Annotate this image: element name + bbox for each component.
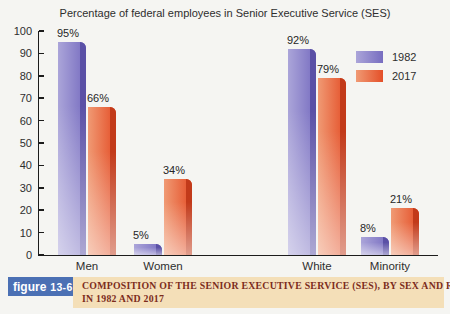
bar-value-label: 66% (87, 92, 109, 104)
y-axis-tick-label: 60 (2, 114, 32, 128)
y-axis-tick (39, 97, 44, 99)
y-axis-tick-label: 20 (2, 203, 32, 217)
y-axis-tick (39, 232, 44, 234)
y-axis-tick (39, 75, 44, 77)
legend-row-1982: 1982 (356, 47, 416, 66)
figure-tag-number: 13-6 (50, 281, 72, 293)
y-axis-tick-label: 70 (2, 91, 32, 105)
bar-shading (88, 107, 116, 255)
legend-label-2017: 2017 (392, 70, 416, 82)
bar-2017-men (88, 107, 116, 255)
y-axis-tick-label: 30 (2, 181, 32, 195)
bar-value-label: 95% (57, 27, 79, 39)
y-axis-tick (39, 165, 44, 167)
y-axis-tick (39, 142, 44, 144)
legend-label-1982: 1982 (392, 51, 416, 63)
y-axis-tick (39, 187, 44, 189)
bar-shading (58, 42, 86, 255)
category-label-men: Men (47, 260, 127, 272)
caption-line-2: IN 1982 AND 2017 (82, 293, 436, 306)
figure-tag-word: figure (13, 280, 46, 294)
bar-shading (134, 244, 162, 255)
caption-line-1: COMPOSITION OF THE SENIOR EXECUTIVE SERV… (82, 280, 436, 293)
category-label-minority: Minority (350, 260, 430, 272)
bar-1982-white (288, 49, 316, 255)
chart-title: Percentage of federal employees in Senio… (0, 7, 450, 19)
bar-shading (164, 179, 192, 255)
bar-value-label: 79% (317, 63, 339, 75)
legend-swatch-2017 (356, 70, 383, 82)
bar-1982-men (58, 42, 86, 255)
y-axis-tick (39, 30, 44, 32)
category-label-women: Women (123, 260, 203, 272)
bar-value-label: 5% (133, 229, 149, 241)
figure-13-6-page: Percentage of federal employees in Senio… (0, 0, 450, 314)
bar-1982-women (134, 244, 162, 255)
legend: 19822017 (356, 47, 416, 85)
bar-2017-minority (391, 208, 419, 255)
bar-shading (361, 237, 389, 255)
bar-value-label: 8% (360, 222, 376, 234)
y-axis-tick (39, 120, 44, 122)
caption-band: COMPOSITION OF THE SENIOR EXECUTIVE SERV… (73, 277, 444, 308)
bar-shading (391, 208, 419, 255)
y-axis-tick-label: 0 (2, 248, 32, 262)
y-axis-tick-label: 80 (2, 69, 32, 83)
legend-row-2017: 2017 (356, 66, 416, 85)
y-axis-tick-label: 100 (2, 24, 32, 38)
bar-value-label: 92% (287, 34, 309, 46)
bar-shading (318, 78, 346, 255)
y-axis-tick (39, 209, 44, 211)
legend-swatch-1982 (356, 51, 383, 63)
y-axis-tick (39, 53, 44, 55)
category-label-white: White (277, 260, 357, 272)
figure-tag: figure 13-6 (8, 277, 78, 296)
bar-2017-women (164, 179, 192, 255)
y-axis-tick-label: 50 (2, 136, 32, 150)
y-axis-tick-label: 10 (2, 226, 32, 240)
bar-value-label: 34% (163, 164, 185, 176)
bar-value-label: 21% (390, 193, 412, 205)
bar-shading (288, 49, 316, 255)
y-axis-tick-label: 40 (2, 158, 32, 172)
bar-2017-white (318, 78, 346, 255)
y-axis-tick-label: 90 (2, 46, 32, 60)
y-axis-tick (39, 254, 44, 256)
bar-1982-minority (361, 237, 389, 255)
